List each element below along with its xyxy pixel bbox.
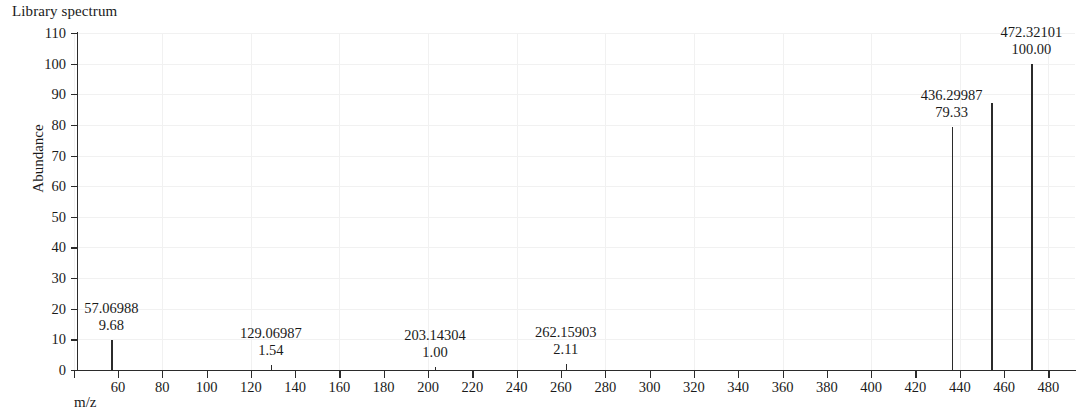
peak-annotation: 262.159032.11 xyxy=(501,324,631,358)
y-tick-label: 10 xyxy=(24,332,66,347)
x-tick-label: 300 xyxy=(630,379,670,395)
gridline-horizontal xyxy=(78,33,1075,34)
x-tick-label: 420 xyxy=(895,379,935,395)
y-tick-label: 100 xyxy=(24,57,66,72)
x-tick-mark xyxy=(827,371,828,378)
gridline-horizontal xyxy=(78,309,1075,310)
y-tick-mark xyxy=(71,125,78,126)
gridline-horizontal xyxy=(78,156,1075,157)
x-tick-mark xyxy=(960,371,961,378)
x-tick-label: 200 xyxy=(408,379,448,395)
x-tick-mark xyxy=(207,371,208,378)
x-tick-mark xyxy=(694,371,695,378)
y-tick-mark xyxy=(71,156,78,157)
peak-intensity-label: 1.54 xyxy=(206,342,336,359)
y-tick-label: 30 xyxy=(24,271,66,286)
gridline-vertical xyxy=(871,33,872,370)
x-tick-label: 120 xyxy=(231,379,271,395)
gridline-horizontal xyxy=(78,278,1075,279)
peak-mz-label: 262.15903 xyxy=(501,324,631,341)
x-tick-mark xyxy=(251,371,252,378)
y-tick-mark xyxy=(71,339,78,340)
x-tick-label: 380 xyxy=(807,379,847,395)
x-tick-mark xyxy=(871,371,872,378)
chart-title: Library spectrum xyxy=(12,2,117,20)
x-tick-mark xyxy=(915,371,916,378)
peak-annotation: 436.2998779.33 xyxy=(887,87,1017,121)
peak-mz-label: 57.06988 xyxy=(46,300,176,317)
gridline-vertical xyxy=(339,33,340,370)
x-tick-mark xyxy=(384,371,385,378)
x-tick-mark xyxy=(472,371,473,378)
x-tick-mark xyxy=(650,371,651,378)
x-tick-mark xyxy=(295,371,296,378)
x-tick-label: 60 xyxy=(98,379,138,395)
peak-mz-label: 472.32101 xyxy=(966,24,1084,41)
x-tick-mark xyxy=(339,371,340,378)
x-tick-label: 160 xyxy=(319,379,359,395)
x-tick-label: 140 xyxy=(275,379,315,395)
x-tick-mark xyxy=(74,371,75,378)
gridline-horizontal xyxy=(78,247,1075,248)
x-tick-label: 440 xyxy=(940,379,980,395)
x-tick-label: 180 xyxy=(364,379,404,395)
x-tick-label: 480 xyxy=(1028,379,1068,395)
peak-intensity-label: 100.00 xyxy=(966,41,1084,58)
x-tick-label: 400 xyxy=(851,379,891,395)
gridline-horizontal xyxy=(78,64,1075,65)
gridline-vertical xyxy=(960,33,961,370)
y-tick-mark xyxy=(71,186,78,187)
y-tick-mark xyxy=(71,94,78,95)
x-tick-mark xyxy=(605,371,606,378)
y-tick-label: 50 xyxy=(24,210,66,225)
x-tick-label: 220 xyxy=(452,379,492,395)
gridline-horizontal xyxy=(78,125,1075,126)
x-tick-mark xyxy=(428,371,429,378)
x-tick-mark xyxy=(783,371,784,378)
peak-annotation: 472.32101100.00 xyxy=(966,24,1084,58)
x-tick-mark xyxy=(517,371,518,378)
peak-annotation: 203.143041.00 xyxy=(370,327,500,361)
x-tick-mark xyxy=(561,371,562,378)
spectrum-peak[interactable] xyxy=(952,127,953,370)
gridline-horizontal xyxy=(78,217,1075,218)
x-tick-label: 240 xyxy=(497,379,537,395)
y-tick-label: 70 xyxy=(24,149,66,164)
x-tick-mark xyxy=(118,371,119,378)
x-tick-label: 340 xyxy=(718,379,758,395)
peak-annotation: 129.069871.54 xyxy=(206,325,336,359)
gridline-vertical xyxy=(428,33,429,370)
y-tick-mark xyxy=(71,278,78,279)
gridline-vertical xyxy=(1048,33,1049,370)
x-tick-label: 280 xyxy=(585,379,625,395)
x-tick-label: 260 xyxy=(541,379,581,395)
peak-mz-label: 129.06987 xyxy=(206,325,336,342)
y-tick-mark xyxy=(71,33,78,34)
gridline-vertical xyxy=(517,33,518,370)
x-axis-line xyxy=(77,370,1076,371)
y-tick-label: 80 xyxy=(24,118,66,133)
y-tick-mark xyxy=(71,217,78,218)
gridline-vertical xyxy=(783,33,784,370)
y-tick-label: 90 xyxy=(24,87,66,102)
x-tick-mark xyxy=(1004,371,1005,378)
y-tick-mark xyxy=(71,64,78,65)
x-axis-label: m/z xyxy=(74,394,97,411)
y-tick-label: 110 xyxy=(24,26,66,41)
peak-intensity-label: 9.68 xyxy=(46,317,176,334)
peak-mz-label: 203.14304 xyxy=(370,327,500,344)
peak-intensity-label: 2.11 xyxy=(501,341,631,358)
y-tick-label: 60 xyxy=(24,179,66,194)
y-tick-label: 40 xyxy=(24,240,66,255)
x-tick-label: 320 xyxy=(674,379,714,395)
spectrum-peak[interactable] xyxy=(991,103,992,370)
peak-intensity-label: 79.33 xyxy=(887,104,1017,121)
spectrum-peak[interactable] xyxy=(111,340,112,370)
peak-annotation: 57.069889.68 xyxy=(46,300,176,334)
x-tick-mark xyxy=(1048,371,1049,378)
gridline-vertical xyxy=(694,33,695,370)
spectrum-peak[interactable] xyxy=(1031,64,1032,370)
x-tick-mark xyxy=(738,371,739,378)
plot-area xyxy=(78,33,1075,370)
y-tick-label: 0 xyxy=(24,363,66,378)
